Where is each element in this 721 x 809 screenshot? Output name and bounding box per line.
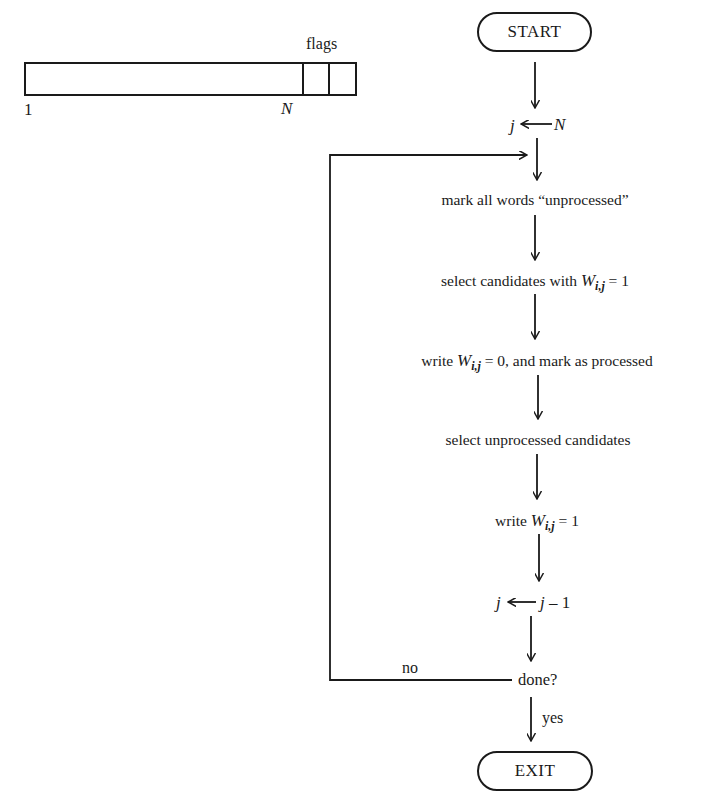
exit-terminal: EXIT [477, 751, 593, 791]
flags-label: flags [306, 36, 337, 52]
decrement-expr: j – 1 [540, 594, 570, 611]
word-left-index: 1 [24, 101, 33, 118]
word-register-box [24, 62, 357, 96]
init-assignment: j [510, 117, 515, 134]
init-value: N [554, 116, 565, 133]
flag-cell-2 [328, 64, 330, 94]
init-var: j [510, 116, 515, 135]
decision-yes-label: yes [542, 710, 563, 726]
step-select-candidates: select candidates with Wi,j = 1 [441, 272, 629, 292]
step-mark-unprocessed: mark all words “unprocessed” [441, 192, 628, 208]
exit-label: EXIT [515, 761, 556, 781]
decision-done: done? [518, 672, 557, 689]
step-select-unprocessed: select unprocessed candidates [445, 432, 630, 448]
word-right-index: N [281, 100, 292, 117]
step-write-one: write Wi,j = 1 [495, 512, 579, 532]
step-write-zero: write Wi,j = 0, and mark as processed [421, 352, 652, 372]
start-terminal: START [477, 12, 592, 52]
flag-cell-1 [302, 64, 304, 94]
start-label: START [508, 22, 562, 42]
decrement-var: j [496, 594, 501, 611]
word-diagram: flags 1 N [0, 0, 380, 130]
decision-no-label: no [402, 660, 418, 676]
